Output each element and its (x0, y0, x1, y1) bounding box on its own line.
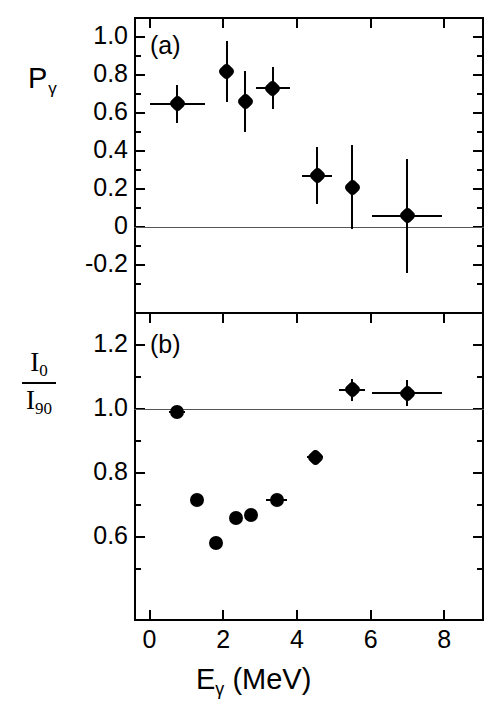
y-tick-right-panel-b (473, 472, 484, 474)
y-minor-tick-right-panel-b (477, 568, 484, 570)
x-tick-top-panel-b (296, 312, 298, 323)
y-tick-label-panel-b: 1.2 (42, 329, 128, 358)
data-marker (343, 381, 361, 399)
data-marker (244, 508, 258, 522)
data-marker (398, 384, 416, 402)
y-tick-label-panel-a: 0.2 (42, 173, 128, 202)
y-minor-tick-right-panel-a (477, 55, 484, 57)
y-minor-tick-right-panel-b (477, 504, 484, 506)
x-tick-label: 4 (271, 625, 323, 654)
y-tick-panel-a (134, 74, 145, 76)
x-tick-top-panel-a (222, 17, 224, 28)
y-tick-label-panel-a: 0.8 (42, 59, 128, 88)
y-minor-tick-panel-a (134, 283, 141, 285)
y-tick-right-panel-a (473, 150, 484, 152)
y-tick-panel-a (134, 188, 145, 190)
x-tick-top-panel-b (370, 312, 372, 323)
y-tick-right-panel-a (473, 74, 484, 76)
x-tick-panel-b (370, 610, 372, 621)
x-tick-panel-b (222, 610, 224, 621)
data-marker (343, 178, 361, 196)
y-tick-label-panel-a: 0.4 (42, 135, 128, 164)
y-tick-panel-a (134, 112, 145, 114)
figure-root: Pγ I0 I90 Eγ (MeV) (a) (b) 1.00.80.60.40… (0, 0, 497, 723)
reference-line-panel-b (134, 409, 484, 410)
y-tick-panel-a (134, 36, 145, 38)
y-minor-tick-panel-b (134, 376, 141, 378)
data-marker (168, 94, 186, 112)
y-tick-right-panel-b (473, 344, 484, 346)
data-marker (236, 92, 254, 110)
x-tick-top-panel-b (443, 312, 445, 323)
x-tick-label: 0 (124, 625, 176, 654)
y-minor-tick-right-panel-b (477, 440, 484, 442)
y-tick-label-panel-b: 0.6 (42, 521, 128, 550)
y-tick-label-panel-a: 0.6 (42, 97, 128, 126)
x-tick-panel-b (443, 610, 445, 621)
x-tick-top-panel-a (370, 17, 372, 28)
x-tick-panel-b (149, 610, 151, 621)
y-minor-tick-right-panel-a (477, 245, 484, 247)
y-minor-tick-right-panel-a (477, 131, 484, 133)
data-marker (190, 493, 204, 507)
y-tick-label-panel-a: 1.0 (42, 21, 128, 50)
y-tick-label-panel-b: 1.0 (42, 393, 128, 422)
y-minor-tick-right-panel-b (477, 376, 484, 378)
y-minor-tick-panel-a (134, 207, 141, 209)
y-minor-tick-right-panel-a (477, 169, 484, 171)
data-marker (170, 405, 184, 419)
y-minor-tick-panel-a (134, 93, 141, 95)
y-tick-label-panel-a: 0 (42, 211, 128, 240)
y-tick-panel-b (134, 472, 145, 474)
y-tick-right-panel-a (473, 36, 484, 38)
x-tick-top-panel-a (443, 17, 445, 28)
reference-line-panel-a (134, 227, 484, 228)
data-marker (270, 493, 284, 507)
y-minor-tick-panel-b (134, 568, 141, 570)
y-tick-panel-a (134, 264, 145, 266)
y-tick-right-panel-a (473, 112, 484, 114)
y-tick-panel-a (134, 150, 145, 152)
x-tick-top-panel-a (296, 17, 298, 28)
y-tick-right-panel-b (473, 536, 484, 538)
data-marker (306, 448, 324, 466)
x-tick-panel-b (296, 610, 298, 621)
data-marker (209, 536, 223, 550)
y-minor-tick-panel-a (134, 169, 141, 171)
y-tick-label-panel-a: -0.2 (42, 249, 128, 278)
data-marker (398, 206, 416, 224)
x-tick-label: 2 (197, 625, 249, 654)
data-marker (264, 79, 282, 97)
y-tick-right-panel-a (473, 188, 484, 190)
y-tick-label-panel-b: 0.8 (42, 457, 128, 486)
y-minor-tick-right-panel-a (477, 207, 484, 209)
x-tick-top-panel-b (222, 312, 224, 323)
y-minor-tick-panel-a (134, 131, 141, 133)
y-minor-tick-right-panel-a (477, 93, 484, 95)
y-minor-tick-right-panel-a (477, 283, 484, 285)
y-tick-panel-b (134, 344, 145, 346)
plot-overlay: 1.00.80.60.40.20-0.21.21.00.80.602468 (0, 0, 497, 723)
x-tick-top-panel-a (149, 17, 151, 28)
y-minor-tick-panel-b (134, 504, 141, 506)
y-minor-tick-panel-a (134, 55, 141, 57)
data-marker (308, 166, 326, 184)
x-tick-top-panel-b (149, 312, 151, 323)
y-minor-tick-panel-a (134, 245, 141, 247)
y-tick-right-panel-a (473, 264, 484, 266)
y-tick-panel-b (134, 536, 145, 538)
data-marker (229, 511, 243, 525)
data-marker (218, 62, 236, 80)
x-tick-label: 6 (345, 625, 397, 654)
y-minor-tick-panel-b (134, 440, 141, 442)
x-tick-label: 8 (418, 625, 470, 654)
